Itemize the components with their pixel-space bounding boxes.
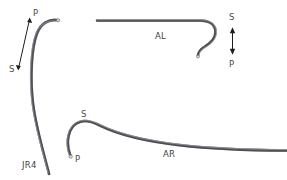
- al-label-proximal: P: [229, 60, 234, 69]
- catheter-jr4: [30, 19, 59, 174]
- jr4-arrowhead-p: [27, 18, 32, 23]
- catheter-diagram-svg: [0, 0, 287, 180]
- ar-label-septal: S: [81, 110, 87, 119]
- figure-canvas: P S JR4 AL S P S P AR: [0, 0, 287, 180]
- ar-tip: [69, 155, 72, 158]
- ar-label-name: AR: [163, 150, 175, 159]
- al-arrowhead-p: [230, 49, 235, 55]
- al-tip: [197, 55, 200, 58]
- jr4-arrowhead-s: [16, 65, 21, 70]
- jr4-label-septal: S: [9, 65, 15, 74]
- jr4-label-name: JR4: [22, 161, 37, 170]
- al-arrowhead-s: [230, 27, 235, 33]
- ar-label-proximal: P: [75, 155, 80, 164]
- catheter-ar: [67, 120, 287, 158]
- jr4-tip: [57, 19, 60, 22]
- al-label-septal: S: [229, 13, 235, 22]
- al-orientation-arrow: [230, 27, 235, 55]
- al-label-name: AL: [155, 32, 166, 41]
- ar-shadow: [69, 122, 287, 156]
- jr4-orientation-arrow: [16, 18, 32, 71]
- jr4-arrow-shaft: [19, 20, 30, 69]
- jr4-shadow: [32, 21, 58, 174]
- jr4-label-proximal: P: [33, 9, 38, 18]
